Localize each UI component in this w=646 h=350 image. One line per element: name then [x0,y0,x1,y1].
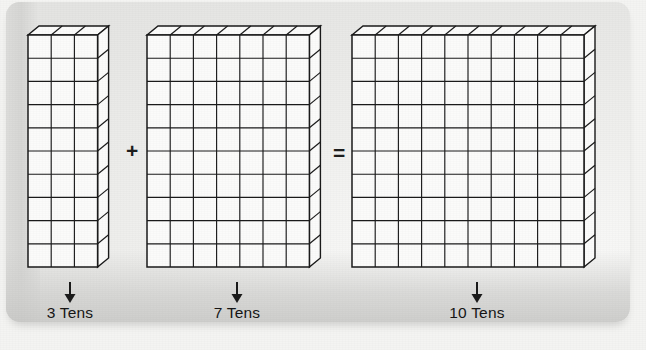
block-7-tens-drawing [147,26,327,288]
base-ten-block-7-tens[interactable] [147,26,327,288]
down-arrow-icon-7-tens [230,282,244,304]
base-ten-block-3-tens[interactable] [28,26,128,288]
plus-operator: + [126,140,138,161]
figure-canvas: + = 3 Tens 7 Tens 10 Tens [0,0,646,350]
base-ten-block-10-tens[interactable] [352,26,604,288]
down-arrow-icon-3-tens [63,282,77,304]
block-3-tens-drawing [28,26,128,288]
block-10-tens-drawing [352,26,604,288]
label-3-tens: 3 Tens [31,304,109,322]
label-7-tens: 7 Tens [198,304,276,322]
label-10-tens: 10 Tens [434,304,520,322]
down-arrow-icon-10-tens [470,282,484,304]
equals-operator: = [333,142,345,163]
